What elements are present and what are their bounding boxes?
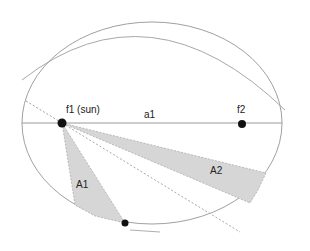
focus1-sun-dot [58,119,67,128]
focus2-dot [238,120,246,128]
planet-dot [122,220,129,227]
area1-label: A1 [76,180,88,190]
semi-major-label: a1 [144,110,155,120]
area2-label: A2 [210,166,222,176]
auxiliary-arc-outer [22,37,285,110]
dotted-line-upper-left [26,101,62,123]
orbit-diagram [0,0,310,251]
motion-arrow [130,230,160,232]
focus2-label: f2 [237,105,245,115]
focus1-label: f1 (sun) [66,105,100,115]
